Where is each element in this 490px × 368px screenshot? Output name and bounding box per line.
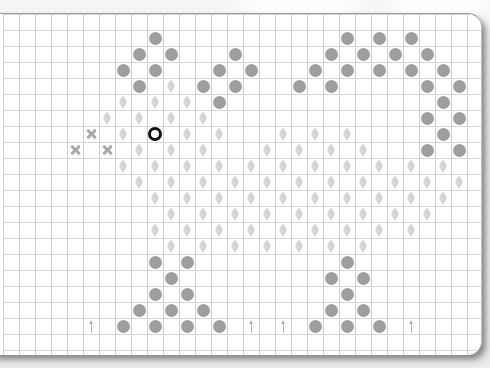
- arrow-up-icon: [411, 321, 412, 333]
- circle-symbol-icon: [229, 48, 242, 61]
- circle-symbol-icon: [421, 80, 434, 93]
- circle-symbol-icon: [325, 80, 338, 93]
- diamond-symbol-icon: [343, 223, 351, 237]
- diamond-symbol-icon: [391, 175, 399, 189]
- circle-symbol-icon: [213, 320, 226, 333]
- circle-symbol-icon: [165, 272, 178, 285]
- circle-symbol-icon: [181, 288, 194, 301]
- diamond-symbol-icon: [135, 143, 143, 157]
- diamond-symbol-icon: [407, 191, 415, 205]
- diamond-symbol-icon: [327, 239, 335, 253]
- diamond-symbol-icon: [167, 143, 175, 157]
- circle-symbol-icon: [325, 272, 338, 285]
- circle-symbol-icon: [405, 64, 418, 77]
- diamond-symbol-icon: [391, 207, 399, 221]
- diamond-symbol-icon: [311, 191, 319, 205]
- ring-marker-icon: [148, 127, 162, 141]
- diamond-symbol-icon: [151, 95, 159, 109]
- circle-symbol-icon: [309, 320, 322, 333]
- circle-symbol-icon: [357, 304, 370, 317]
- circle-symbol-icon: [453, 112, 466, 125]
- circle-symbol-icon: [325, 304, 338, 317]
- circle-symbol-icon: [181, 320, 194, 333]
- circle-symbol-icon: [149, 256, 162, 269]
- diamond-symbol-icon: [215, 223, 223, 237]
- diamond-symbol-icon: [343, 191, 351, 205]
- cross-symbol-icon: [85, 128, 97, 140]
- diamond-symbol-icon: [327, 207, 335, 221]
- diamond-symbol-icon: [343, 127, 351, 141]
- diamond-symbol-icon: [183, 191, 191, 205]
- diamond-symbol-icon: [151, 159, 159, 173]
- circle-symbol-icon: [341, 288, 354, 301]
- circle-symbol-icon: [133, 304, 146, 317]
- chart-paper: [0, 13, 482, 355]
- circle-symbol-icon: [373, 32, 386, 45]
- diamond-symbol-icon: [295, 239, 303, 253]
- diamond-symbol-icon: [375, 159, 383, 173]
- circle-symbol-icon: [133, 48, 146, 61]
- diamond-symbol-icon: [359, 239, 367, 253]
- diamond-symbol-icon: [167, 111, 175, 125]
- diamond-symbol-icon: [215, 159, 223, 173]
- diamond-symbol-icon: [119, 127, 127, 141]
- circle-symbol-icon: [453, 144, 466, 157]
- diamond-symbol-icon: [375, 191, 383, 205]
- diamond-symbol-icon: [263, 239, 271, 253]
- diamond-symbol-icon: [311, 223, 319, 237]
- circle-symbol-icon: [149, 288, 162, 301]
- diamond-symbol-icon: [295, 175, 303, 189]
- diamond-symbol-icon: [247, 159, 255, 173]
- diamond-symbol-icon: [327, 175, 335, 189]
- diamond-symbol-icon: [263, 143, 271, 157]
- arrow-up-icon: [283, 321, 284, 333]
- diamond-symbol-icon: [231, 207, 239, 221]
- pattern-grid: [3, 14, 482, 355]
- diamond-symbol-icon: [247, 223, 255, 237]
- circle-symbol-icon: [373, 320, 386, 333]
- diamond-symbol-icon: [263, 207, 271, 221]
- diamond-symbol-icon: [135, 111, 143, 125]
- diamond-symbol-icon: [199, 239, 207, 253]
- circle-symbol-icon: [197, 80, 210, 93]
- diamond-symbol-icon: [231, 239, 239, 253]
- diamond-symbol-icon: [295, 143, 303, 157]
- diamond-symbol-icon: [135, 175, 143, 189]
- circle-symbol-icon: [341, 64, 354, 77]
- diamond-symbol-icon: [183, 95, 191, 109]
- circle-symbol-icon: [389, 48, 402, 61]
- circle-symbol-icon: [149, 64, 162, 77]
- diamond-symbol-icon: [167, 239, 175, 253]
- circle-symbol-icon: [341, 320, 354, 333]
- circle-symbol-icon: [293, 80, 306, 93]
- circle-symbol-icon: [341, 32, 354, 45]
- diamond-symbol-icon: [263, 175, 271, 189]
- diamond-symbol-icon: [295, 207, 303, 221]
- circle-symbol-icon: [149, 320, 162, 333]
- circle-symbol-icon: [229, 80, 242, 93]
- circle-symbol-icon: [213, 96, 226, 109]
- circle-symbol-icon: [309, 64, 322, 77]
- circle-symbol-icon: [133, 80, 146, 93]
- diamond-symbol-icon: [359, 175, 367, 189]
- diamond-symbol-icon: [359, 143, 367, 157]
- circle-symbol-icon: [421, 48, 434, 61]
- circle-symbol-icon: [181, 256, 194, 269]
- diamond-symbol-icon: [439, 159, 447, 173]
- circle-symbol-icon: [197, 304, 210, 317]
- diamond-symbol-icon: [119, 95, 127, 109]
- diamond-symbol-icon: [455, 175, 463, 189]
- diamond-symbol-icon: [279, 223, 287, 237]
- circle-symbol-icon: [357, 48, 370, 61]
- diamond-symbol-icon: [375, 223, 383, 237]
- diamond-symbol-icon: [311, 127, 319, 141]
- diamond-symbol-icon: [183, 159, 191, 173]
- cross-symbol-icon: [69, 144, 81, 156]
- diamond-symbol-icon: [279, 127, 287, 141]
- diamond-symbol-icon: [151, 223, 159, 237]
- diamond-symbol-icon: [151, 191, 159, 205]
- circle-symbol-icon: [165, 48, 178, 61]
- diamond-symbol-icon: [327, 143, 335, 157]
- circle-symbol-icon: [373, 64, 386, 77]
- diamond-symbol-icon: [407, 159, 415, 173]
